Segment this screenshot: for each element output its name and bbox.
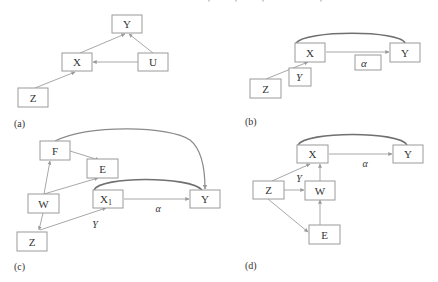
- svg-text:Z: Z: [29, 236, 36, 248]
- cropped-caption-fragment: [208, 0, 322, 2]
- node-y: Y: [112, 15, 142, 33]
- node-z: Z: [17, 232, 47, 251]
- edge-w-to-e: [44, 178, 98, 194]
- edge-w-to-z: [39, 213, 43, 230]
- node-e: E: [309, 225, 340, 244]
- svg-text:X: X: [306, 47, 314, 59]
- svg-text:α: α: [361, 57, 367, 69]
- panel-d: α Υ X Y Z W E (d): [245, 135, 423, 273]
- panel-label-a: (a): [14, 118, 25, 130]
- edge-z-to-x: [35, 72, 75, 88]
- node-w: W: [305, 181, 335, 200]
- edge-x-to-y: [80, 34, 125, 53]
- svg-text:W: W: [315, 185, 326, 197]
- node-y: Y: [390, 43, 420, 62]
- svg-text:E: E: [321, 229, 328, 241]
- edge-z-to-e: [268, 199, 308, 232]
- node-z: Z: [250, 79, 281, 98]
- edge-w-to-f: [44, 161, 50, 194]
- svg-text:Z: Z: [265, 184, 272, 196]
- upsilon-edge-label: Υ: [92, 219, 99, 230]
- node-x: X: [297, 145, 328, 163]
- node-x: X: [295, 43, 325, 62]
- svg-text:F: F: [52, 145, 58, 157]
- alpha-edge-label: α: [362, 158, 368, 169]
- panel-b: X Y α Υ Z (b): [245, 33, 420, 128]
- node-f: F: [40, 141, 70, 160]
- panel-a: Y X U Z (a): [14, 15, 168, 130]
- panel-label-c: (c): [14, 261, 25, 273]
- node-z: Z: [253, 181, 284, 199]
- node-x: X: [62, 53, 92, 71]
- edge-z-to-x: [272, 164, 310, 181]
- svg-text:Y: Y: [401, 47, 409, 59]
- alpha-label-box: α: [355, 55, 381, 70]
- svg-text:U: U: [149, 56, 157, 68]
- svg-text:E: E: [99, 163, 106, 175]
- causal-diagram-figure: Y X U Z (a) X Y α: [0, 0, 438, 282]
- bidirected-x-y: [298, 135, 407, 146]
- node-x1: X1: [93, 190, 123, 208]
- svg-text:X: X: [309, 148, 317, 160]
- svg-text:W: W: [38, 198, 49, 210]
- svg-text:Z: Z: [30, 92, 37, 104]
- upsilon-label-box: Υ: [289, 68, 311, 86]
- node-e: E: [87, 159, 118, 178]
- panel-label-d: (d): [245, 260, 257, 272]
- panel-label-b: (b): [245, 116, 257, 128]
- node-y: Y: [393, 145, 423, 163]
- upsilon-edge-label: Υ: [296, 173, 303, 184]
- node-y: Y: [190, 190, 220, 208]
- bidirected-x-y: [296, 33, 405, 43]
- alpha-edge-label: α: [155, 203, 161, 214]
- edge-u-to-y: [129, 34, 153, 53]
- svg-text:Z: Z: [262, 83, 269, 95]
- bidirected-x1-y: [94, 180, 202, 191]
- node-u: U: [138, 53, 168, 71]
- svg-text:Y: Y: [201, 193, 209, 205]
- node-z: Z: [18, 88, 48, 107]
- svg-text:X: X: [73, 56, 81, 68]
- node-w: W: [28, 194, 59, 213]
- svg-text:Y: Y: [123, 18, 131, 30]
- panel-c: α Υ F E W X1 Y Z (c): [14, 129, 220, 273]
- svg-text:Y: Y: [404, 148, 412, 160]
